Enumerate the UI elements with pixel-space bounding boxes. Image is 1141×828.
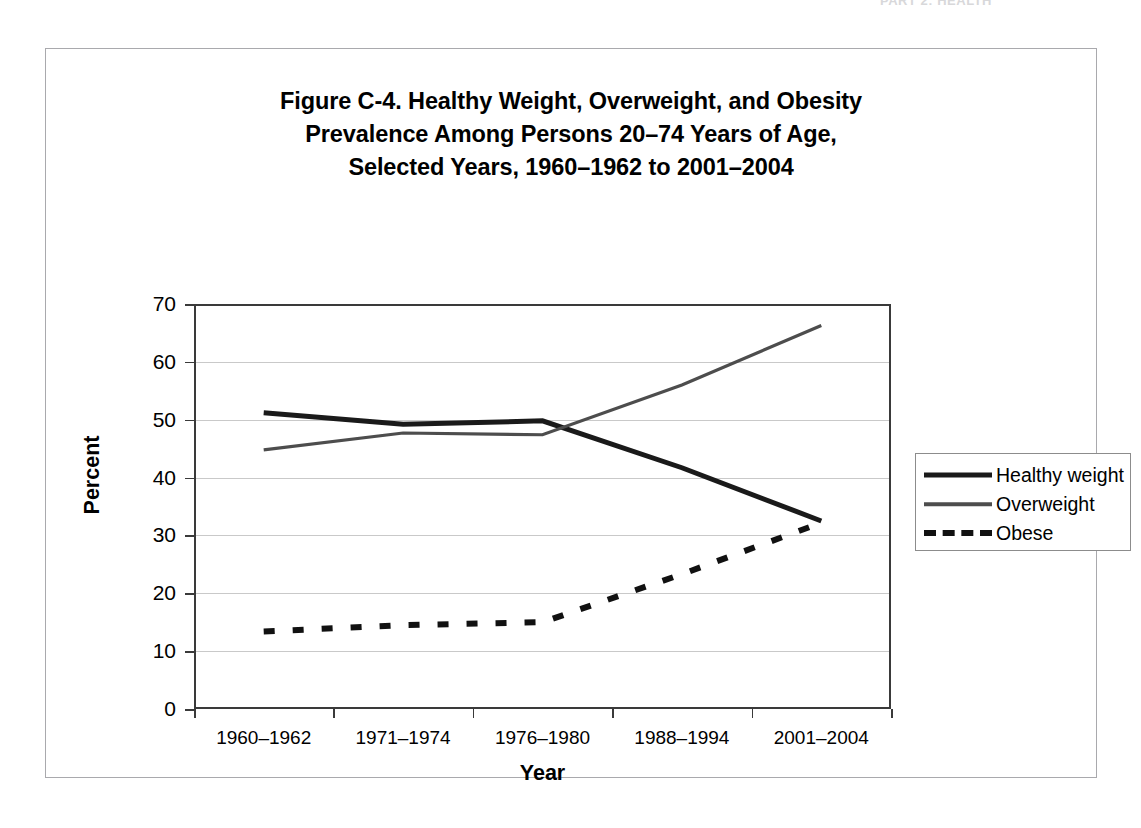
- x-tick-mark: [194, 709, 196, 718]
- legend-label: Healthy weight: [992, 464, 1124, 487]
- legend-label: Overweight: [992, 493, 1095, 516]
- x-tick-label: 1976–1980: [473, 728, 612, 747]
- plot-area: [194, 304, 891, 709]
- x-tick-mark: [333, 709, 335, 718]
- series-line-healthy-weight: [264, 413, 822, 521]
- y-tick-label: 0: [94, 698, 176, 719]
- series-lines: [194, 304, 891, 709]
- y-tick-label: 30: [94, 524, 176, 545]
- figure-frame: Figure C-4. Healthy Weight, Overweight, …: [45, 48, 1097, 778]
- x-tick-mark: [752, 709, 754, 718]
- legend-swatch-dashed: [924, 525, 992, 541]
- y-tick-mark: [185, 593, 194, 595]
- legend-swatch-solid: [924, 496, 992, 512]
- x-tick-mark: [612, 709, 614, 718]
- y-tick-label: 10: [94, 640, 176, 661]
- legend-item-overweight[interactable]: Overweight: [924, 489, 1124, 519]
- y-tick-label: 20: [94, 582, 176, 603]
- series-line-overweight: [264, 325, 822, 449]
- y-tick-label: 60: [94, 351, 176, 372]
- x-tick-label: 1971–1974: [333, 728, 472, 747]
- chart-canvas: Percent Year 010203040506070 1960–196219…: [46, 49, 1096, 777]
- y-tick-mark: [185, 362, 194, 364]
- y-tick-mark: [185, 304, 194, 306]
- x-tick-label: 2001–2004: [752, 728, 891, 747]
- y-tick-mark: [185, 651, 194, 653]
- y-tick-label: 40: [94, 467, 176, 488]
- legend-swatch-solid: [924, 467, 992, 483]
- chart-legend: Healthy weightOverweightObese: [915, 453, 1131, 551]
- x-axis-title: Year: [194, 761, 891, 786]
- y-tick-mark: [185, 478, 194, 480]
- y-tick-label: 70: [94, 293, 176, 314]
- x-tick-mark: [473, 709, 475, 718]
- x-tick-mark: [891, 709, 893, 718]
- y-tick-mark: [185, 535, 194, 537]
- legend-item-obese[interactable]: Obese: [924, 518, 1124, 548]
- x-tick-label: 1960–1962: [194, 728, 333, 747]
- legend-item-healthy-weight[interactable]: Healthy weight: [924, 460, 1124, 490]
- legend-label: Obese: [992, 522, 1053, 545]
- series-line-obese: [264, 523, 822, 632]
- y-tick-mark: [185, 709, 194, 711]
- running-header: PART 2: HEALTH: [880, 0, 1090, 9]
- y-tick-label: 50: [94, 409, 176, 430]
- y-tick-mark: [185, 420, 194, 422]
- x-tick-label: 1988–1994: [612, 728, 751, 747]
